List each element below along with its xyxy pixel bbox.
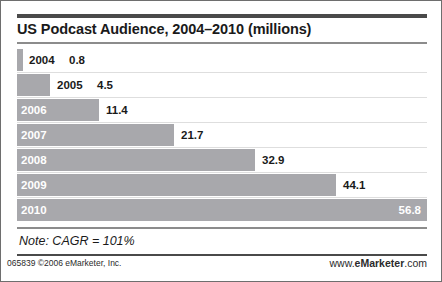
row-separator	[17, 147, 427, 148]
bar-value-label: 44.1	[343, 174, 365, 196]
bar-year-label: 2008	[21, 149, 47, 171]
chart-card: US Podcast Audience, 2004–2010 (millions…	[0, 0, 442, 282]
bar-row: 200944.1	[17, 174, 427, 196]
title-top-rule	[17, 14, 427, 18]
footer: 065839 ©2006 eMarketer, Inc. www.eMarket…	[17, 258, 427, 274]
note-top-rule	[17, 227, 427, 229]
footer-website[interactable]: www.eMarketer.com	[330, 257, 427, 269]
bar-value-label: 56.8	[399, 199, 421, 221]
bar-chart-plot: 20040.820054.5200611.4200721.7200832.920…	[17, 49, 427, 226]
bar-row: 20054.5	[17, 74, 427, 96]
row-separator	[17, 97, 427, 98]
footer-website-suffix: .com	[404, 257, 427, 269]
row-separator	[17, 172, 427, 173]
chart-inner: US Podcast Audience, 2004–2010 (millions…	[17, 1, 427, 282]
footer-copyright: 065839 ©2006 eMarketer, Inc.	[7, 258, 121, 268]
bar-value-label: 21.7	[181, 124, 203, 146]
row-separator	[17, 72, 427, 73]
bar-2009: 2009	[17, 174, 336, 196]
bar-year-label: 2007	[21, 124, 47, 146]
footer-top-rule	[17, 254, 427, 256]
row-separator	[17, 197, 427, 198]
bar-2007: 2007	[17, 124, 174, 146]
bar-year-label: 2004	[29, 49, 55, 71]
bar-row: 201056.8	[17, 199, 427, 221]
bar-2006: 2006	[17, 99, 99, 121]
title-bottom-rule	[17, 42, 427, 44]
bar-value-label: 0.8	[69, 49, 85, 71]
bar-value-label: 32.9	[262, 149, 284, 171]
footer-website-brand: eMarketer	[355, 257, 405, 269]
bar-value-label: 11.4	[106, 99, 128, 121]
bar-2010: 201056.8	[17, 199, 427, 221]
bar-year-label: 2009	[21, 174, 47, 196]
page-title: US Podcast Audience, 2004–2010 (millions…	[17, 21, 427, 37]
bar-row: 200611.4	[17, 99, 427, 121]
bar-row: 20040.8	[17, 49, 427, 71]
chart-note: Note: CAGR = 101%	[19, 234, 135, 248]
bar-year-label: 2010	[21, 199, 47, 221]
row-separator	[17, 122, 427, 123]
bar-year-label: 2006	[21, 99, 47, 121]
bar-2004	[17, 49, 23, 71]
bar-row: 200721.7	[17, 124, 427, 146]
bar-2005	[17, 74, 50, 96]
bar-2008: 2008	[17, 149, 255, 171]
bar-value-label: 4.5	[97, 74, 113, 96]
bar-row: 200832.9	[17, 149, 427, 171]
footer-website-prefix: www.	[330, 257, 355, 269]
bar-year-label: 2005	[57, 74, 83, 96]
